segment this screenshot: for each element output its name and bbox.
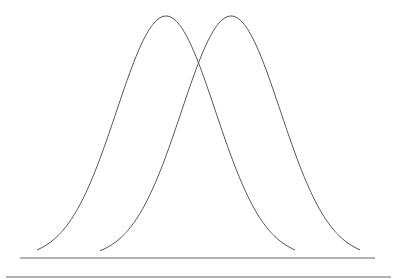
distribution-diagram	[0, 0, 395, 279]
left-distribution-curve	[37, 16, 295, 250]
right-distribution-curve	[100, 16, 360, 251]
